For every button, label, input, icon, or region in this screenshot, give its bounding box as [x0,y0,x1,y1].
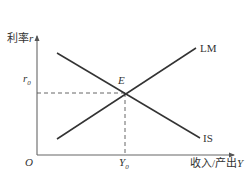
origin-label: O [25,156,33,168]
r0-label: r0 [23,72,31,87]
y0-label: Y0 [119,156,129,171]
is-label: IS [203,132,213,144]
is-lm-diagram: 利率r r0 E O Y0 LM IS 收入/产出Y [0,0,252,187]
equilibrium-point-label: E [117,74,125,86]
y-axis-label: 利率r [7,31,34,44]
x-axis-label: 收入/产出Y [190,156,245,169]
lm-label: LM [200,42,217,54]
lm-curve [57,48,196,139]
